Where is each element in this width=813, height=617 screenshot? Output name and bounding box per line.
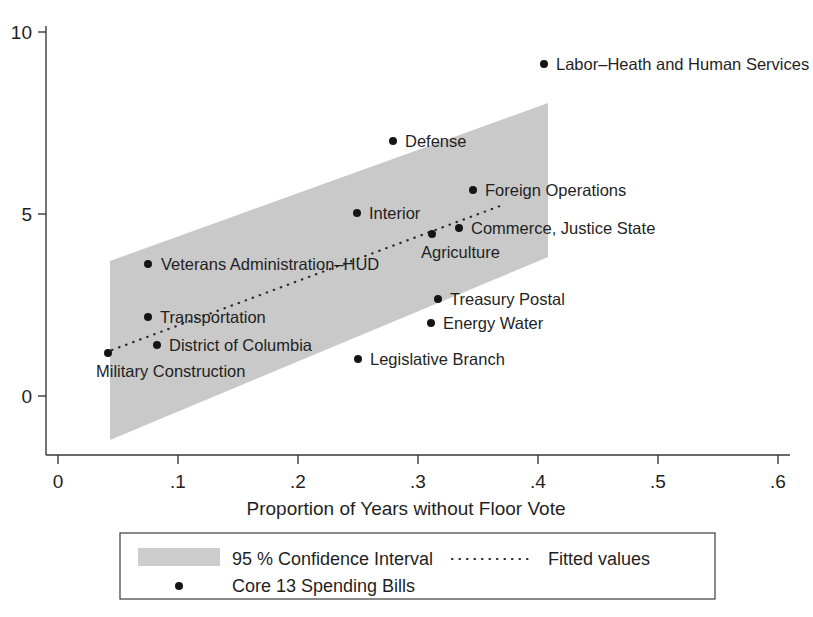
- chart-canvas: 10 5 0 0 .1 .2 .3 .4 .5 .6 Proportion of…: [0, 0, 813, 617]
- x-tick-label-4: .4: [530, 471, 546, 492]
- legend-entry-core-13-spending-bills[interactable]: Core 13 Spending Bills: [175, 576, 415, 596]
- x-axis-title: Proportion of Years without Floor Vote: [247, 498, 566, 519]
- data-point-marker: [354, 355, 362, 363]
- legend-label-core13: Core 13 Spending Bills: [232, 576, 415, 596]
- y-tick-label-10: 10: [11, 22, 32, 43]
- chart-legend: 95 % Confidence Interval Fitted values C…: [120, 533, 715, 599]
- data-point-marker: [153, 341, 161, 349]
- y-axis: 10 5 0: [11, 22, 46, 455]
- x-tick-label-0: 0: [53, 471, 64, 492]
- data-point-label: Energy Water: [443, 314, 544, 332]
- data-point-label: Commerce, Justice State: [471, 219, 655, 237]
- data-point-marker: [353, 209, 361, 217]
- y-tick-label-5: 5: [21, 204, 32, 225]
- data-point-label: Legislative Branch: [370, 350, 505, 368]
- data-point-legislative-branch[interactable]: Legislative Branch: [354, 350, 505, 368]
- data-point-transportation[interactable]: Transportation: [144, 308, 266, 326]
- data-point-foreign-operations[interactable]: Foreign Operations: [469, 181, 626, 199]
- data-point-label: Treasury Postal: [450, 290, 565, 308]
- data-point-marker: [469, 186, 477, 194]
- data-point-marker: [434, 295, 442, 303]
- data-point-marker: [144, 313, 152, 321]
- data-point-defense[interactable]: Defense: [389, 132, 466, 150]
- data-point-marker: [540, 60, 548, 68]
- y-tick-label-0: 0: [21, 386, 32, 407]
- data-point-treasury-postal[interactable]: Treasury Postal: [434, 290, 565, 308]
- x-axis: 0 .1 .2 .3 .4 .5 .6 Proportion of Years …: [46, 455, 790, 519]
- x-tick-label-2: .2: [290, 471, 306, 492]
- x-tick-label-5: .5: [650, 471, 666, 492]
- legend-label-ci: 95 % Confidence Interval: [232, 549, 433, 569]
- data-point-label: Interior: [369, 204, 421, 222]
- data-point-labor-hhs[interactable]: Labor–Heath and Human Services: [540, 55, 809, 73]
- data-point-district-of-columbia[interactable]: District of Columbia: [153, 336, 313, 354]
- data-point-label: Veterans Administration–HUD: [161, 255, 379, 273]
- x-tick-label-3: .3: [410, 471, 426, 492]
- data-point-label: District of Columbia: [169, 336, 313, 354]
- data-point-label: Foreign Operations: [485, 181, 626, 199]
- data-point-marker: [455, 224, 463, 232]
- data-point-commerce-justice-state[interactable]: Commerce, Justice State: [455, 219, 655, 237]
- data-point-marker: [427, 319, 435, 327]
- data-point-marker: [389, 137, 397, 145]
- data-point-label: Agriculture: [421, 243, 500, 261]
- data-point-label: Defense: [405, 132, 466, 150]
- legend-label-fitted: Fitted values: [548, 549, 650, 569]
- data-point-label: Transportation: [160, 308, 266, 326]
- data-point-veterans-administration-hud[interactable]: Veterans Administration–HUD: [144, 255, 379, 273]
- data-point-marker: [144, 260, 152, 268]
- dot-marker-icon: [175, 582, 183, 590]
- x-tick-label-1: .1: [170, 471, 186, 492]
- data-point-marker: [428, 230, 436, 238]
- data-point-energy-water[interactable]: Energy Water: [427, 314, 544, 332]
- x-tick-label-6: .6: [770, 471, 786, 492]
- data-point-label: Labor–Heath and Human Services: [556, 55, 809, 73]
- legend-entry-fitted-values[interactable]: Fitted values: [452, 549, 650, 569]
- data-point-label: Military Construction: [96, 362, 245, 380]
- legend-entry-confidence-interval[interactable]: 95 % Confidence Interval: [138, 548, 433, 569]
- data-point-marker: [104, 349, 112, 357]
- ci-swatch-icon: [138, 548, 220, 566]
- scatter-plot-figure: 10 5 0 0 .1 .2 .3 .4 .5 .6 Proportion of…: [0, 0, 813, 617]
